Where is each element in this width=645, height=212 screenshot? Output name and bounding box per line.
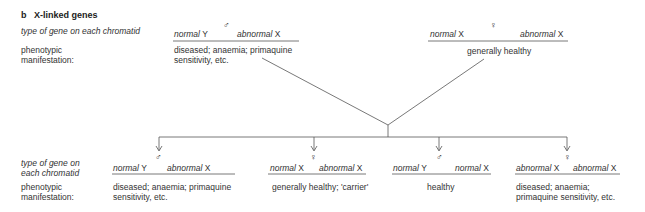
male-symbol-icon: ♂: [223, 20, 230, 30]
chromosome: Y: [202, 29, 208, 39]
chromosome: X: [483, 163, 489, 173]
child-3-left-gene: normal Y: [393, 163, 427, 173]
offspring-gene-label-1: type of gene on: [21, 158, 80, 168]
child-1-phenotype-1: diseased; anaemia; primaquine: [113, 182, 231, 192]
allele: abnormal: [167, 163, 202, 173]
allele: normal: [270, 163, 296, 173]
allele: abnormal: [516, 163, 551, 173]
allele: normal: [455, 163, 481, 173]
child-3-right-gene: normal X: [455, 163, 489, 173]
section-heading: X-linked genes: [34, 10, 98, 20]
allele: normal: [113, 163, 139, 173]
parents-gene-label: type of gene on each chromatid: [21, 26, 140, 36]
allele: normal: [393, 163, 419, 173]
female-symbol-icon: ♀: [490, 20, 497, 30]
child-2-right-gene: abnormal X: [319, 163, 362, 173]
male-parent-phenotype-2: sensitivity, etc.: [174, 55, 229, 65]
chromosome: X: [298, 163, 304, 173]
male-symbol-icon: ♂: [155, 152, 162, 162]
child-4-phenotype-1: diseased; anaemia;: [516, 182, 590, 192]
allele: abnormal: [520, 29, 555, 39]
child-1-phenotype-2: sensitivity, etc.: [113, 192, 168, 202]
offspring-gene-label-2: each chromatid: [21, 168, 79, 178]
allele: normal: [430, 29, 456, 39]
chromosome: X: [611, 163, 617, 173]
allele: abnormal: [237, 29, 272, 39]
section-letter: b: [21, 10, 27, 20]
child-2-phenotype: generally healthy; 'carrier': [272, 182, 368, 192]
parents-phenotype-label-2: manifestation:: [21, 55, 74, 65]
child-4-left-gene: abnormal X: [516, 163, 559, 173]
chromosome: X: [357, 163, 363, 173]
chromosome: X: [458, 29, 464, 39]
male-symbol-icon: ♂: [436, 152, 443, 162]
allele: normal: [174, 29, 200, 39]
chromosome: Y: [141, 163, 147, 173]
parents-phenotype-label-1: phenotypic: [21, 45, 62, 55]
child-4-right-gene: abnormal X: [573, 163, 616, 173]
chromosome: Y: [421, 163, 427, 173]
child-2-left-gene: normal X: [270, 163, 304, 173]
child-1-left-gene: normal Y: [113, 163, 147, 173]
child-1-right-gene: abnormal X: [167, 163, 210, 173]
female-symbol-icon: ♀: [310, 152, 317, 162]
female-symbol-icon: ♀: [564, 152, 571, 162]
chromosome: X: [275, 29, 281, 39]
chromosome: X: [554, 163, 560, 173]
chromosome: X: [558, 29, 564, 39]
male-parent-right-gene: abnormal X: [237, 29, 280, 39]
female-parent-right-gene: abnormal X: [520, 29, 563, 39]
section-title: b X-linked genes: [21, 10, 98, 20]
offspring-phenotype-label-2: manifestation:: [21, 192, 74, 202]
chromosome: X: [205, 163, 211, 173]
child-4-phenotype-2: primaquine sensitivity, etc.: [516, 192, 615, 202]
child-3-phenotype: healthy: [427, 182, 454, 192]
male-parent-phenotype-1: diseased; anaemia; primaquine: [174, 45, 292, 55]
allele: abnormal: [573, 163, 608, 173]
female-parent-phenotype: generally healthy: [467, 46, 531, 56]
offspring-phenotype-label-1: phenotypic: [21, 182, 62, 192]
female-parent-left-gene: normal X: [430, 29, 464, 39]
male-parent-left-gene: normal Y: [174, 29, 208, 39]
allele: abnormal: [319, 163, 354, 173]
